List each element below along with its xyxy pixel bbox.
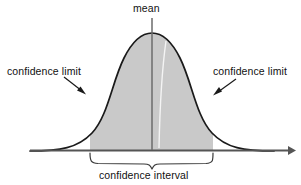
confidence-limit-left-label: confidence limit bbox=[7, 66, 81, 77]
confidence-interval-brace bbox=[90, 153, 213, 169]
confidence-interval-label: confidence interval bbox=[99, 170, 188, 181]
x-axis-arrowhead bbox=[288, 146, 296, 155]
mean-label: mean bbox=[133, 3, 160, 14]
confidence-interval-diagram: mean confidence limit confidence limit c… bbox=[0, 0, 301, 185]
diagram-canvas bbox=[0, 0, 301, 185]
confidence-limit-left-arrow bbox=[64, 77, 86, 95]
confidence-limit-right-arrow bbox=[213, 79, 236, 96]
confidence-limit-right-label: confidence limit bbox=[213, 66, 287, 77]
